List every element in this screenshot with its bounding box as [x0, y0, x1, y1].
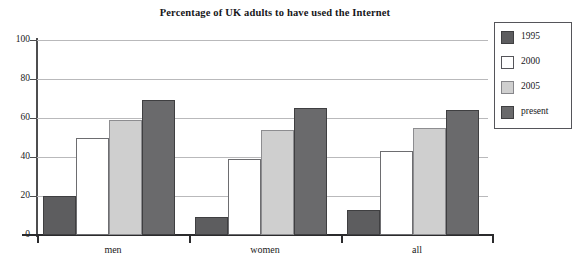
bar-women-1995: [195, 217, 228, 235]
y-tick-label-40: 40: [0, 152, 30, 162]
bar-all-present: [446, 110, 479, 235]
bar-women-2005: [261, 130, 294, 235]
bar-all-2005: [413, 128, 446, 235]
legend-item-2000: 2000: [501, 54, 540, 70]
legend-swatch-present-icon: [501, 106, 514, 119]
gridline-60: [37, 118, 488, 119]
x-tick-mark-start: [37, 234, 39, 243]
legend-swatch-2000-icon: [501, 56, 514, 69]
y-tick-label-60: 60: [0, 113, 30, 123]
y-tick-label-20: 20: [0, 191, 30, 201]
chart-legend: 1995 2000 2005 present: [494, 22, 572, 129]
legend-swatch-1995-icon: [501, 31, 514, 44]
y-tick-label-100: 100: [0, 35, 30, 45]
plot-area: [37, 40, 488, 235]
legend-label-2000: 2000: [521, 57, 540, 67]
gridline-100: [37, 40, 488, 41]
legend-label-1995: 1995: [521, 32, 540, 42]
bar-women-present: [294, 108, 327, 235]
x-tick-mark-end: [492, 234, 494, 243]
gridline-80: [37, 79, 488, 80]
legend-item-present: present: [501, 104, 548, 120]
legend-swatch-2005-icon: [501, 81, 514, 94]
x-tick-label-all: all: [357, 245, 477, 255]
x-tick-mark-women: [341, 234, 343, 243]
x-tick-label-women: women: [205, 245, 325, 255]
legend-item-2005: 2005: [501, 79, 540, 95]
bar-men-1995: [43, 196, 76, 235]
bar-all-2000: [380, 151, 413, 235]
bar-men-2000: [76, 138, 109, 236]
legend-label-present: present: [521, 107, 548, 117]
y-tick-label-80: 80: [0, 74, 30, 84]
chart-title: Percentage of UK adults to have used the…: [60, 7, 490, 18]
bar-men-2005: [109, 120, 142, 235]
bar-all-1995: [347, 210, 380, 235]
x-tick-mark-men: [189, 234, 191, 243]
legend-item-1995: 1995: [501, 29, 540, 45]
x-tick-label-men: men: [53, 245, 173, 255]
bar-men-present: [142, 100, 175, 235]
bar-chart: Percentage of UK adults to have used the…: [0, 0, 577, 275]
bar-women-2000: [228, 159, 261, 235]
legend-label-2005: 2005: [521, 82, 540, 92]
